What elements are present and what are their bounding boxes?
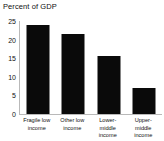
y-axis-tick-label: 0 [12,111,16,118]
bar-series [20,18,162,114]
chart-title: Percent of GDP [3,2,57,12]
y-axis-tick-label: 5 [12,92,16,99]
bar[interactable] [133,88,156,114]
y-axis-tick-label: 10 [8,73,16,80]
x-axis-category-label: Other low income [56,117,90,132]
y-axis-tick-label: 15 [8,55,16,62]
y-axis-tick-label: 25 [8,18,16,25]
bar[interactable] [62,34,85,114]
bar[interactable] [26,25,49,114]
bar-slot [20,18,56,114]
bar-chart: Percent of GDP 0510152025 Fragile low in… [0,0,164,141]
x-axis-line [19,114,162,115]
x-axis-category-label: Upper-middle income [127,117,161,140]
bar-slot [127,18,163,114]
y-axis-tick-label: 20 [8,36,16,43]
x-axis-category-label: Fragile low income [20,117,54,132]
bar-slot [91,18,127,114]
plot-area: 0510152025 [19,18,162,117]
x-axis-category-labels: Fragile low incomeOther low incomeLower-… [19,117,162,141]
x-axis-category-label: Lower-middle income [91,117,125,140]
bar[interactable] [97,56,120,114]
bar-slot [56,18,92,114]
